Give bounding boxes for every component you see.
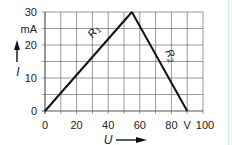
grid — [42, 12, 203, 114]
x-tick-label: 60 — [134, 119, 146, 131]
y-tick-label: 0 — [31, 105, 37, 117]
page-edge-fill — [229, 0, 232, 145]
x-tick-label: 40 — [102, 119, 114, 131]
y-unit-label: mA — [21, 23, 38, 35]
y-tick-label: 10 — [25, 72, 37, 84]
x-unit-label: V — [184, 119, 192, 131]
x-axis-label: U — [104, 133, 113, 145]
y-axis-label: I — [16, 65, 20, 79]
series-label-r1: R1 — [85, 22, 104, 41]
ticks: 020406080100V0102030mA — [21, 6, 215, 131]
y-axis-arrow-icon — [14, 40, 20, 50]
x-tick-label: 100 — [196, 119, 214, 131]
x-tick-label: 80 — [165, 119, 177, 131]
y-tick-label: 30 — [25, 6, 37, 18]
x-tick-label: 20 — [70, 119, 82, 131]
labels: R1R2IU — [14, 22, 180, 145]
x-tick-label: 0 — [42, 119, 48, 131]
x-axis-arrow-icon — [136, 137, 147, 143]
series-label-r2: R2 — [162, 47, 180, 65]
chart: 020406080100V0102030mA R1R2IU — [0, 0, 228, 145]
y-tick-label: 20 — [25, 39, 37, 51]
